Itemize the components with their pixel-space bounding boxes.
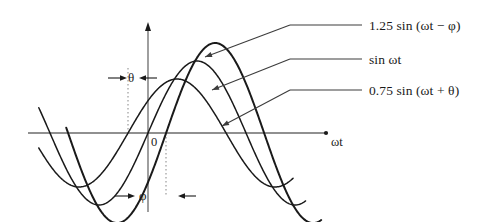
waveform-figure: 0 ωt θ φ 1.25 sin (ωt − φ) sin ωt 0.75 s… bbox=[0, 0, 496, 222]
legend-leader bbox=[212, 59, 290, 90]
waveform-plot bbox=[0, 0, 496, 222]
legend-label-3: 0.75 sin (ωt + θ) bbox=[369, 84, 459, 98]
theta-annotation-label: θ bbox=[128, 71, 134, 84]
legend-leader-arrowhead bbox=[212, 85, 219, 90]
legend-leader-arrowhead bbox=[205, 52, 212, 57]
legend-label-1: 1.25 sin (ωt − φ) bbox=[369, 19, 461, 33]
phi-annotation-label: φ bbox=[139, 189, 147, 202]
origin-label: 0 bbox=[151, 136, 157, 149]
x-axis bbox=[28, 131, 328, 135]
legend-leader-lines bbox=[205, 25, 362, 126]
legend-leader-arrowhead bbox=[222, 120, 229, 126]
legend-label-2: sin ωt bbox=[369, 53, 401, 67]
legend-leader bbox=[205, 25, 290, 57]
x-axis-label: ωt bbox=[331, 136, 343, 149]
legend-leader bbox=[222, 90, 290, 126]
